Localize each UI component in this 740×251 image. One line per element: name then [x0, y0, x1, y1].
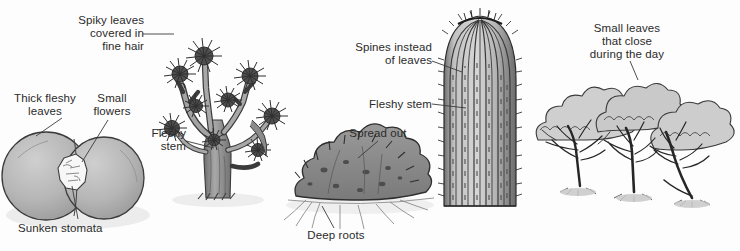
- cactus-artwork: [438, 8, 522, 206]
- label-spread-out: Spread out: [338, 127, 418, 140]
- label-fleshy-stem-cactus: Fleshy stem: [352, 98, 432, 111]
- label-small-flowers: Small flowers: [84, 92, 140, 118]
- label-small-leaves-close: Small leaves that close during the day: [572, 22, 682, 62]
- label-thick-fleshy-leaves: Thick fleshy leaves: [2, 92, 88, 118]
- label-deep-roots: Deep roots: [296, 229, 376, 242]
- label-spines-instead-of-leaves: Spines instead of leaves: [340, 41, 432, 67]
- desert-plant-adaptations-figure: Thick fleshy leaves Small flowers Sunken…: [0, 0, 740, 251]
- label-sunken-stomata: Sunken stomata: [18, 222, 148, 235]
- label-spiky-leaves: Spiky leaves covered in fine hair: [58, 14, 144, 54]
- leader-small-leaves-close: [630, 61, 638, 80]
- label-fleshy-stem-tree: Fleshy stem: [128, 127, 186, 153]
- joshua-tree-artwork: [157, 38, 288, 207]
- small-leaf-shrubs-artwork: [536, 83, 734, 208]
